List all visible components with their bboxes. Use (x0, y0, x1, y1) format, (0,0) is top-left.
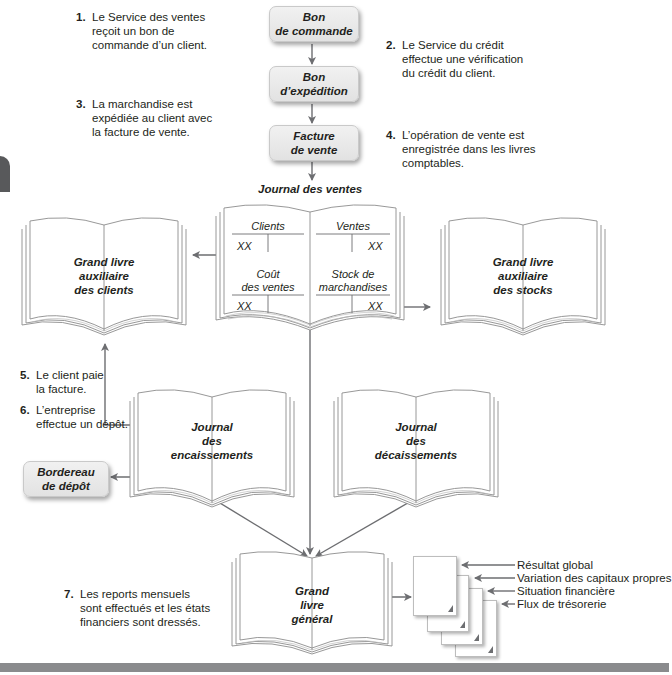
page-fold-icon (488, 646, 493, 653)
statement-label: Résultat global (517, 558, 593, 572)
paper-resultat-global (413, 556, 457, 616)
step-1: 1. Le Service des ventes reçoit un bon d… (76, 10, 207, 52)
book-grand-livre-general: Grand livre général (228, 548, 396, 656)
account-ventes: Ventes (316, 220, 390, 233)
amount-cout-debit: XX (237, 300, 252, 312)
step-text: L’opération de vente est enregistrée dan… (402, 128, 536, 170)
step-number: 1. (76, 10, 86, 24)
book-gl-auxiliaire-stocks: Grand livre auxiliaire des stocks (437, 213, 609, 337)
step-2: 2. Le Service du crédit effectue une vér… (386, 38, 523, 80)
book-label: Grand livre auxiliaire des clients (18, 255, 190, 297)
step-text: Le Service des ventes reçoit un bon de c… (92, 10, 207, 52)
book-label: Grand livre auxiliaire des stocks (437, 255, 609, 297)
doc-bon-de-commande: Bon de commande (269, 6, 359, 42)
amount-clients-debit: XX (237, 240, 252, 252)
step-number: 4. (386, 128, 396, 142)
doc-bordereau-de-depot: Bordereau de dépôt (23, 461, 109, 497)
step-3: 3. La marchandise est expédiée au client… (76, 97, 212, 139)
account-cout-des-ventes: Coût des ventes (232, 268, 304, 294)
account-clients: Clients (232, 220, 304, 233)
step-4: 4. L’opération de vente est enregistrée … (386, 128, 536, 170)
step-text: Le client paie la facture. (36, 368, 104, 396)
step-7: 7. Les reports mensuels sont effectués e… (64, 587, 210, 629)
statement-label: Variation des capitaux propres (517, 571, 672, 585)
amount-ventes-credit: XX (368, 240, 383, 252)
book-label: Journal des encaissements (126, 420, 298, 462)
open-book-icon (210, 198, 410, 333)
step-number: 7. (64, 587, 74, 601)
step-number: 2. (386, 38, 396, 52)
book-label: Journal des décaissements (330, 420, 502, 462)
step-number: 3. (76, 97, 86, 111)
step-number: 6. (20, 403, 30, 417)
book-gl-auxiliaire-clients: Grand livre auxiliaire des clients (18, 213, 190, 337)
step-5: 5. Le client paie la facture. (20, 368, 104, 396)
statement-label: Flux de trésorerie (517, 597, 606, 611)
page-fold-icon (448, 605, 453, 612)
step-text: Le Service du crédit effectue une vérifi… (402, 38, 523, 80)
book-label: Grand livre général (228, 584, 396, 626)
amount-stock-credit: XX (368, 300, 383, 312)
statement-label: Situation financière (517, 584, 615, 598)
book-journal-des-ventes: Clients XX Ventes XX Coût des ventes XX … (210, 198, 410, 333)
page-fold-icon (474, 634, 479, 641)
step-text: L’entreprise effectue un dépôt. (36, 403, 128, 431)
book-journal-encaissements: Journal des encaissements (126, 385, 298, 509)
journal-ventes-title: Journal des ventes (258, 183, 362, 195)
account-stock-marchandises: Stock de marchandises (316, 268, 390, 294)
step-6: 6. L’entreprise effectue un dépôt. (20, 403, 128, 431)
book-journal-decaissements: Journal des décaissements (330, 385, 502, 509)
step-text: Les reports mensuels sont effectués et l… (80, 587, 210, 629)
step-number: 5. (20, 368, 30, 382)
doc-facture-de-vente: Facture de vente (269, 125, 359, 161)
page-fold-icon (460, 621, 465, 628)
doc-bon-expedition: Bon d’expédition (269, 66, 359, 102)
step-text: La marchandise est expédiée au client av… (92, 97, 212, 139)
